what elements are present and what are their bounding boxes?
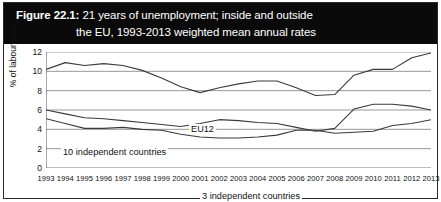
title-line-2: the EU, 1993-2013 weighted mean annual r… (14, 24, 427, 41)
series-annotation-ten-countries: 10 independent countries (61, 147, 168, 157)
y-axis-tick-label: 6 (37, 105, 42, 115)
x-axis-tick-label: 1998 (134, 174, 151, 183)
title-line-1: Figure 22.1: 21 years of unemployment; i… (14, 7, 427, 24)
series-line-2 (46, 104, 431, 131)
y-axis-tick-label: 10 (33, 66, 42, 76)
x-axis-tick-label: 1997 (115, 174, 132, 183)
y-axis-tick-labels: 121086420 (18, 44, 42, 178)
chart-body: % of labour force 121086420 199319941995… (4, 44, 437, 198)
series-annotation-eu12: EU12 (189, 124, 216, 134)
series-line-3 (46, 119, 431, 138)
y-axis-tick-label: 8 (37, 86, 42, 96)
series-line-1 (46, 53, 431, 96)
y-axis-tick-label: 0 (37, 163, 42, 173)
x-axis-tick-label: 2010 (365, 174, 382, 183)
series-lines (46, 53, 431, 138)
x-axis-tick-label: 2007 (307, 174, 324, 183)
x-axis-tick-label: 1996 (95, 174, 112, 183)
x-axis-tick-label: 2013 (423, 174, 440, 183)
x-axis-tick-label: 2005 (269, 174, 286, 183)
x-axis-tick-label: 2004 (249, 174, 266, 183)
x-axis-tick-label: 2008 (326, 174, 343, 183)
x-axis-tick-label: 2012 (403, 174, 420, 183)
series-annotation-three-countries: 3 independent countries (200, 191, 302, 201)
y-axis-label: % of labour force (8, 10, 18, 100)
x-axis-tick-labels: 1993199419951996199719981999200020012002… (46, 174, 431, 190)
x-axis-tick-label: 2001 (192, 174, 209, 183)
figure-number-label: Figure 22.1: (16, 9, 79, 21)
x-axis-tick-label: 1995 (76, 174, 93, 183)
figure-container: Figure 22.1: 21 years of unemployment; i… (0, 0, 441, 202)
x-axis-tick-label: 2006 (288, 174, 305, 183)
x-axis-tick-label: 1999 (153, 174, 170, 183)
figure-title-banner: Figure 22.1: 21 years of unemployment; i… (4, 3, 437, 44)
x-axis-tick-label: 2002 (211, 174, 228, 183)
y-axis-tick-label: 4 (37, 124, 42, 134)
x-axis-tick-label: 2000 (172, 174, 189, 183)
y-axis-tick-label: 2 (37, 144, 42, 154)
y-axis-tick-label: 12 (33, 47, 42, 57)
title-text-1: 21 years of unemployment; inside and out… (82, 9, 312, 21)
x-axis-tick-label: 2003 (230, 174, 247, 183)
x-axis-tick-label: 2011 (384, 174, 400, 183)
x-axis-tick-label: 1994 (57, 174, 74, 183)
x-axis-tick-label: 2009 (346, 174, 363, 183)
x-axis-tick-label: 1993 (38, 174, 55, 183)
